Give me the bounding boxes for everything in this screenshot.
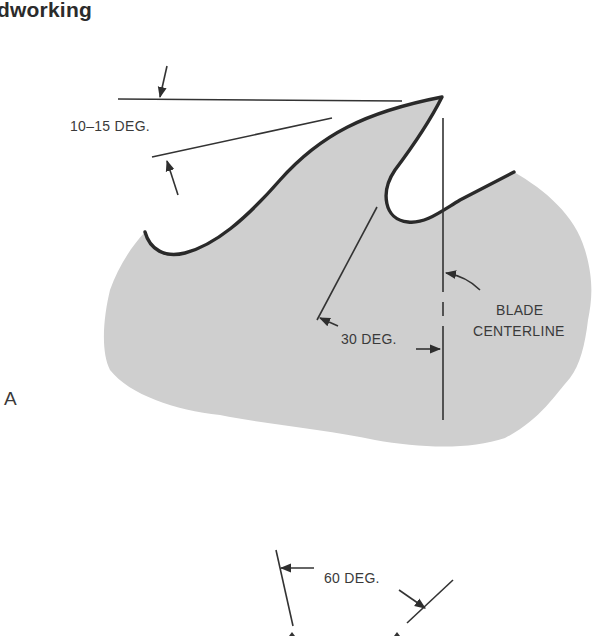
second-fig-right-line [407, 580, 453, 623]
blade-body [104, 97, 591, 447]
centerline-label-line2: CENTERLINE [473, 323, 565, 339]
panel-label-a: A [4, 388, 17, 409]
hook-arrow-bottom [167, 161, 178, 195]
second-fig-right-arrow [399, 590, 425, 608]
saw-tooth-diagram: 10‒15 DEG. BLADE CENTERLINE 30 DEG. A 60… [0, 0, 598, 636]
bottom-mark-right [394, 632, 400, 636]
second-fig-angle-label: 60 DEG. [324, 570, 380, 586]
bottom-mark-left [289, 632, 295, 636]
centerline-label-line1: BLADE [496, 302, 543, 318]
hook-reference-line [118, 99, 402, 101]
hook-arrow-top [160, 66, 167, 97]
second-fig-left-line [276, 550, 293, 626]
hook-face-line [152, 118, 332, 157]
gullet-angle-label: 30 DEG. [341, 331, 397, 347]
hook-angle-label: 10‒15 DEG. [70, 118, 150, 134]
